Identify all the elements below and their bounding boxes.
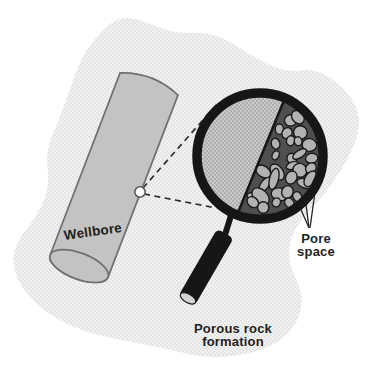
pore-space-label-line2: space <box>281 246 351 259</box>
formation-label-line2: formation <box>173 336 293 349</box>
sample-point-marker-icon <box>135 187 145 197</box>
diagram-artwork <box>0 0 375 369</box>
rock-grain <box>257 202 269 214</box>
diagram-canvas: Wellbore Pore space Porous rock formatio… <box>0 0 375 369</box>
pore-space-label: Pore space <box>281 233 351 258</box>
formation-label: Porous rock formation <box>173 323 293 348</box>
